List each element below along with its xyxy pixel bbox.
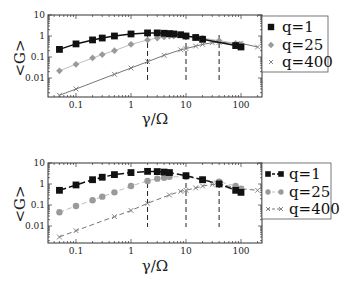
square-marker	[278, 171, 284, 177]
square-marker	[265, 171, 271, 177]
ytick-label: 10	[34, 158, 46, 168]
square-marker	[56, 187, 63, 194]
circle-marker	[56, 209, 62, 215]
square-marker	[154, 30, 161, 37]
axis-ticks	[48, 163, 262, 243]
circle-marker	[278, 189, 283, 194]
circle-marker	[89, 197, 95, 203]
square-marker	[170, 31, 177, 38]
data-series	[56, 168, 260, 239]
x-marker	[74, 228, 79, 233]
square-marker	[89, 176, 96, 183]
legend: q=1 q=25 q=400	[262, 16, 333, 72]
x-marker	[162, 53, 167, 58]
square-marker	[111, 171, 118, 178]
x-marker	[112, 72, 117, 77]
diamond-marker	[56, 67, 63, 74]
square-marker	[154, 168, 161, 175]
series-line-q=400	[59, 42, 257, 95]
square-marker	[128, 31, 135, 38]
ytick-label: 1	[39, 31, 45, 41]
x-marker	[129, 66, 134, 71]
square-marker	[192, 34, 199, 41]
legend-label-q25: q=25	[289, 183, 330, 201]
ytick-label: 10	[34, 10, 46, 20]
x-marker	[167, 193, 172, 198]
xtick-label: 100	[232, 246, 249, 256]
legend-label-q1: q=1	[282, 18, 314, 36]
ytick-label: 0.1	[31, 200, 45, 210]
square-marker	[268, 24, 274, 30]
circle-marker	[154, 175, 160, 181]
dashed-reference-lines	[148, 183, 220, 227]
square-marker	[99, 174, 106, 181]
square-marker	[238, 189, 245, 196]
diamond-marker	[73, 61, 80, 68]
square-marker	[216, 181, 223, 188]
y-axis-label: <G>	[11, 185, 29, 222]
square-marker	[111, 33, 118, 40]
plot-frame	[48, 163, 262, 243]
square-marker	[73, 41, 80, 48]
data-series	[56, 30, 260, 98]
legend: q=1 q=25 q=400	[262, 163, 340, 219]
legend-label-q25: q=25	[282, 36, 323, 54]
circle-marker	[111, 189, 117, 195]
square-marker	[144, 168, 151, 175]
xtick-label: 100	[232, 100, 249, 110]
figure: 0.1 1 10 100 0.01 0.1 1 10 γ/Ω <G> q=1 q…	[0, 0, 347, 287]
square-marker	[183, 172, 190, 179]
x-marker	[74, 87, 79, 92]
axis-ticks	[48, 15, 262, 97]
x-axis-label: γ/Ω	[142, 110, 168, 128]
y-axis-label: <G>	[11, 39, 29, 76]
circle-marker	[144, 178, 150, 184]
xtick-label: 1	[128, 246, 134, 256]
square-marker	[183, 33, 190, 40]
square-marker	[199, 176, 206, 183]
diamond-marker	[111, 47, 118, 54]
legend-label-q400: q=400	[289, 200, 340, 218]
diamond-marker	[99, 51, 106, 58]
xtick-label: 1	[128, 100, 134, 110]
x-axis-label: γ/Ω	[142, 257, 168, 275]
square-marker	[238, 44, 245, 51]
diamond-marker	[89, 55, 96, 62]
circle-marker	[99, 193, 105, 199]
circle-marker	[265, 189, 270, 194]
square-marker	[199, 36, 206, 43]
square-marker	[73, 182, 80, 189]
square-marker	[99, 35, 106, 42]
circle-marker	[128, 183, 134, 189]
xtick-label: 0.1	[69, 246, 83, 256]
plot-frame	[48, 15, 262, 97]
xtick-label: 10	[180, 246, 192, 256]
series-line-q=400	[59, 184, 257, 237]
xtick-label: 10	[180, 100, 192, 110]
legend-label-q400: q=400	[282, 53, 333, 71]
square-marker	[56, 46, 63, 53]
square-marker	[166, 169, 173, 176]
x-marker	[129, 208, 134, 213]
x-marker	[57, 235, 62, 240]
diamond-marker	[128, 41, 135, 48]
square-marker	[144, 30, 151, 37]
x-marker	[112, 214, 117, 219]
circle-marker	[73, 203, 79, 209]
ytick-label: 0.1	[31, 52, 45, 62]
top-panel: 0.1 1 10 100 0.01 0.1 1 10 γ/Ω <G> q=1 q…	[11, 10, 333, 128]
bottom-panel: 0.1 1 10 100 0.01 0.1 1 10 γ/Ω <G> q=1 q…	[11, 158, 340, 275]
ytick-label: 1	[39, 179, 45, 189]
xtick-label: 0.1	[69, 100, 83, 110]
x-marker	[255, 188, 260, 193]
square-marker	[89, 37, 96, 44]
square-marker	[128, 169, 135, 176]
legend-label-q1: q=1	[289, 165, 321, 183]
diamond-marker	[144, 37, 151, 44]
